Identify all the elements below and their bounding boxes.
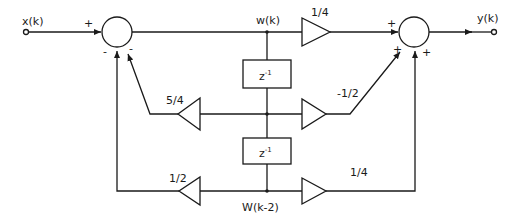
sign-output-plus-2: + (393, 43, 402, 56)
node-w-k-1 (265, 112, 269, 116)
node-w-k (265, 30, 269, 34)
output-terminal (492, 30, 497, 35)
sign-output-plus-3: + (422, 46, 431, 59)
delay-2-label: z-1 (259, 146, 272, 160)
delay-1-label: z-1 (259, 69, 272, 83)
gain-forward-top-label: 1/4 (311, 6, 329, 19)
output-label: y(k) (477, 12, 498, 25)
node-bottom-label: W(k-2) (242, 201, 279, 214)
gain-forward-middle-label: -1/2 (337, 87, 359, 100)
gain-forward-bottom (302, 178, 326, 204)
block-diagram: x(k) y(k) w(k) W(k-2) z-1 z-1 1/4 -1/2 1… (0, 0, 528, 218)
node-w-k-2 (265, 189, 269, 193)
sign-input-minus-1: - (103, 45, 107, 58)
input-terminal (24, 30, 29, 35)
input-label: x(k) (22, 15, 43, 28)
gain-forward-top (302, 18, 330, 46)
gain-feedback-middle-label: 5/4 (166, 94, 184, 107)
sign-input-minus-2: - (129, 42, 133, 55)
gain-feedback-bottom-label: 1/2 (169, 172, 187, 185)
sign-output-plus-1: + (387, 17, 396, 30)
gain-forward-middle (302, 99, 326, 129)
node-top-label: w(k) (256, 14, 280, 27)
gain-forward-bottom-label: 1/4 (350, 166, 368, 179)
input-summing-junction (102, 17, 132, 47)
sign-input-plus: + (84, 17, 93, 30)
output-summing-junction (399, 17, 429, 47)
